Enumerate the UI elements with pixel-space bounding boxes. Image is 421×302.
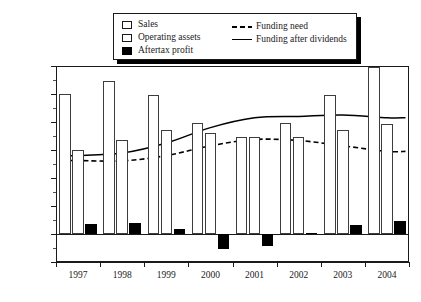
filled-square-icon [122,47,132,55]
bar-operating-assets-2000 [205,133,217,234]
bar-sales-1998 [103,81,115,234]
solid-line-icon [232,36,252,44]
dashed-line-icon [232,23,252,31]
x-axis-tick [233,262,234,267]
y-axis-tick [51,150,56,151]
y-axis-minor-tick [53,248,56,249]
y-axis-tick [51,66,56,67]
bar-operating-assets-2004 [381,124,393,234]
bar-sales-2000 [192,123,204,234]
bar-operating-assets-1999 [161,130,173,234]
legend-column-bars: Sales Operating assets Aftertax profit [122,18,201,57]
x-axis-tick-label: 2001 [235,270,275,280]
y-axis-tick [51,122,56,123]
bar-sales-2003 [324,95,336,234]
x-axis-tick [277,262,278,267]
bar-sales-1999 [148,95,160,234]
bar-sales-2002 [280,123,292,234]
bar-operating-assets-2001 [249,137,261,234]
legend-label-operating-assets: Operating assets [138,32,201,43]
legend-column-lines: Funding need Funding after dividends [232,20,347,46]
bar-sales-2001 [236,137,248,234]
legend-label-sales: Sales [138,19,158,30]
bar-aftertax-profit-2003 [350,225,362,234]
x-axis-tick [144,262,145,267]
x-axis-tick [409,262,410,267]
x-axis-tick [188,262,189,267]
bar-aftertax-profit-2002 [306,233,318,235]
bar-aftertax-profit-1997 [85,224,97,234]
bar-aftertax-profit-2004 [394,221,406,234]
y-axis-line [56,66,57,262]
y-axis-minor-tick [53,220,56,221]
open-square-icon [122,34,132,42]
x-axis-tick-label: 1997 [58,270,98,280]
x-axis-tick-label: 1999 [146,270,186,280]
legend-item-operating-assets[interactable]: Operating assets [122,31,201,44]
y-axis-tick [51,94,56,95]
x-axis-tick [365,262,366,267]
y-axis-tick [51,178,56,179]
bar-operating-assets-1998 [116,140,128,234]
bar-operating-assets-2002 [293,137,305,234]
bar-aftertax-profit-1998 [129,223,141,234]
x-axis-tick-label: 2002 [279,270,319,280]
x-axis-tick [321,262,322,267]
x-axis-tick [100,262,101,267]
legend-item-funding-after-dividends[interactable]: Funding after dividends [232,33,347,46]
legend-item-funding-need[interactable]: Funding need [232,20,347,33]
bar-aftertax-profit-1999 [174,229,186,234]
legend-item-aftertax-profit[interactable]: Aftertax profit [122,44,201,57]
y-axis-tick [51,206,56,207]
bar-operating-assets-2003 [337,130,349,234]
x-axis-tick-label: 2003 [323,270,363,280]
chart-canvas: -20002004006008001,0001,200 199719981999… [0,0,421,302]
open-square-icon [122,21,132,29]
x-axis-tick-label: 2000 [190,270,230,280]
y-axis-minor-tick [53,136,56,137]
legend-label-funding-need: Funding need [256,21,308,32]
y-axis-minor-tick [53,108,56,109]
legend-label-aftertax-profit: Aftertax profit [138,45,193,56]
legend-item-sales[interactable]: Sales [122,18,201,31]
y-axis-minor-tick [53,80,56,81]
bar-aftertax-profit-2000 [218,234,230,249]
bar-sales-1997 [59,94,71,234]
legend-label-funding-after-dividends: Funding after dividends [256,34,347,45]
y-axis-minor-tick [53,192,56,193]
chart-legend: Sales Operating assets Aftertax profit F… [113,13,357,60]
bar-aftertax-profit-2001 [262,234,274,246]
x-axis-tick [56,262,57,267]
bar-sales-2004 [368,67,380,234]
zero-baseline [56,234,409,235]
y-axis-minor-tick [53,164,56,165]
bar-operating-assets-1997 [72,150,84,234]
x-axis-tick-label: 2004 [367,270,407,280]
x-axis-tick-label: 1998 [102,270,142,280]
